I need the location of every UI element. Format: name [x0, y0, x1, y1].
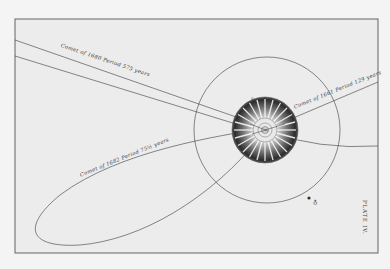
plate-frame [15, 19, 378, 253]
earth-symbol: ♁ [313, 198, 317, 205]
orbit-diagram [0, 0, 390, 269]
plate-number-label: PLATE IV. [362, 200, 368, 235]
planet-symbol: ♀ [251, 97, 254, 101]
astronomical-plate: Comet of 1680 Period 575 years Comet of … [0, 0, 390, 269]
sun-icon [232, 97, 298, 163]
earth-marker [307, 196, 310, 199]
